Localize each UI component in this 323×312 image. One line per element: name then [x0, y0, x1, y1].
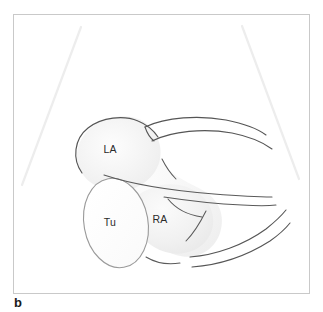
- label-tu: Tu: [104, 216, 116, 228]
- figure-root: LA Tu RA b: [0, 0, 323, 312]
- panel-letter: b: [14, 296, 22, 310]
- superior-vessel-curves: [145, 117, 272, 149]
- label-la: LA: [103, 143, 116, 155]
- diagram-illustration: LA Tu RA: [14, 15, 309, 293]
- ra-inferior-arc: [146, 257, 180, 264]
- diagram-frame: LA Tu RA: [13, 14, 310, 294]
- label-ra: RA: [153, 213, 168, 225]
